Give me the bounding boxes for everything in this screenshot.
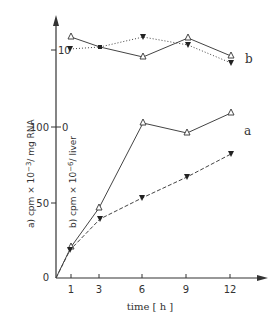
series-b-filled-line bbox=[70, 37, 231, 63]
series-b-open-line bbox=[71, 37, 231, 57]
y-axis-label-b: b) cpm × 10−6/ liver bbox=[67, 136, 78, 228]
x-tick-6: 6 bbox=[139, 284, 145, 295]
chart: 0 50 100 0 10 1 3 6 9 12 time [ h ] a) c… bbox=[0, 0, 272, 320]
b-tick-0: 0 bbox=[62, 122, 68, 133]
axes bbox=[56, 20, 262, 278]
x-tick-12: 12 bbox=[224, 284, 237, 295]
y-axis-label-a: a) cpm × 10−3/ mg RNA bbox=[25, 118, 36, 228]
x-tick-3: 3 bbox=[96, 284, 102, 295]
y-tick-50: 50 bbox=[36, 198, 49, 209]
series-label-a: a bbox=[244, 124, 251, 138]
x-tick-1: 1 bbox=[68, 284, 74, 295]
x-axis-label: time [ h ] bbox=[127, 301, 173, 312]
y-tick-0: 0 bbox=[43, 272, 49, 283]
series-a-filled-line bbox=[56, 154, 231, 278]
x-tick-9: 9 bbox=[183, 284, 189, 295]
series-label-b: b bbox=[245, 52, 253, 66]
x-axis-arrow-icon bbox=[257, 275, 268, 281]
y-axis-arrow-icon bbox=[53, 15, 59, 26]
filled-triangle-markers bbox=[67, 34, 234, 253]
